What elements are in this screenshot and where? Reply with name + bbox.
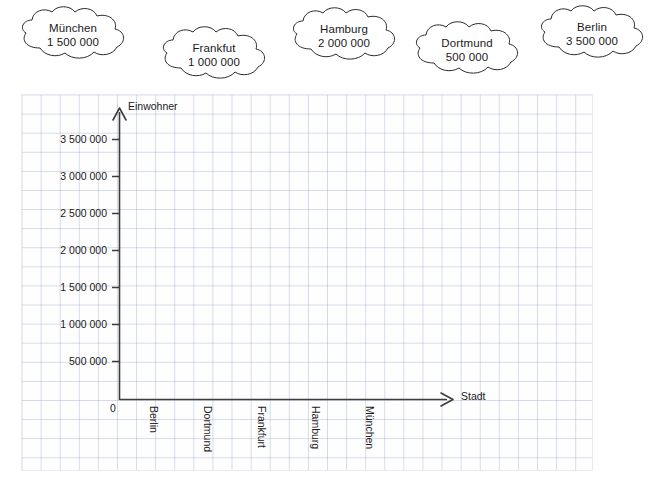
y-axis (113, 108, 126, 400)
x-category-label-dortmund: Dortmund (202, 406, 214, 452)
x-axis (120, 393, 454, 406)
x-category-label-frankfurt: Frankfurt (256, 406, 268, 448)
x-category-label-muenchen: München (364, 406, 376, 449)
coordinate-chart: Einwohner Stadt 3 500 000 3 000 000 2 50… (0, 0, 664, 487)
origin-label: 0 (110, 402, 116, 414)
x-category-label-berlin: Berlin (148, 406, 160, 433)
x-axis-title: Stadt (461, 390, 486, 402)
x-category-label-hamburg: Hamburg (310, 406, 322, 449)
y-axis-title: Einwohner (128, 100, 178, 112)
